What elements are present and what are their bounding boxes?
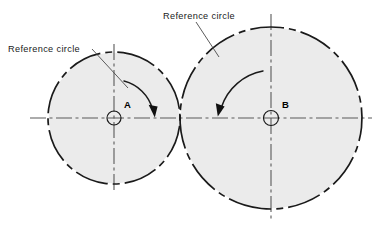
diagram-canvas: .chain-circle { fill: none; stroke: #1a1… [0,0,379,230]
reference-circles-diagram: .chain-circle { fill: none; stroke: #1a1… [0,0,379,230]
label-reference-circle-right: Reference circle [163,11,235,21]
label-reference-circle-left: Reference circle [8,44,80,54]
center-label-b: B [282,99,289,110]
center-label-a: A [124,99,131,110]
